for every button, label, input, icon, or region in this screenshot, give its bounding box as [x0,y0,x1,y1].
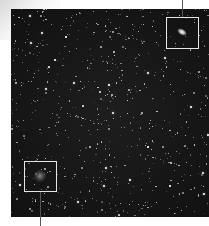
star [177,183,178,184]
star [136,57,137,58]
star [92,198,93,199]
star [180,61,181,62]
star [128,37,129,38]
star [58,117,59,118]
star [186,206,187,207]
star [79,140,80,141]
star [143,9,144,10]
star [185,135,186,136]
star [40,15,41,16]
star [194,211,195,212]
star [107,70,108,71]
star [16,198,18,200]
star [170,162,172,164]
star [147,146,149,148]
star [12,99,13,100]
star [122,46,123,47]
star [86,177,87,178]
star [93,180,94,181]
star [192,15,193,16]
star [109,36,110,37]
star [109,141,110,142]
star [84,161,85,162]
star [108,128,110,130]
star [138,31,139,32]
star [139,138,140,139]
star [124,165,126,167]
star [127,113,128,114]
star [64,206,65,207]
star [151,149,152,150]
star [36,158,37,159]
star [109,91,110,92]
star [174,213,175,214]
star [166,191,167,192]
star [112,31,114,33]
star [117,184,118,185]
star [126,16,127,17]
star [29,52,30,53]
star [127,146,128,147]
star [175,134,176,135]
star [89,49,90,50]
star [28,81,29,82]
star [203,193,205,195]
star [24,138,25,139]
star [38,43,39,44]
star [23,135,24,136]
star [190,175,191,176]
star [167,158,168,159]
star [32,112,33,113]
star [58,206,59,207]
star [74,176,75,177]
star [89,68,90,69]
star [103,185,105,187]
star [63,58,64,59]
star [148,53,149,54]
star [105,148,106,149]
star [60,166,61,167]
star [61,29,62,30]
star [184,145,185,146]
star [119,77,120,78]
star [115,28,116,29]
star [31,103,32,104]
star [200,76,201,77]
star [97,129,98,130]
star [99,177,100,178]
star [89,190,90,191]
star [44,16,45,17]
star [152,157,153,158]
star [22,159,23,160]
star [21,9,22,10]
star [206,144,207,145]
star [84,86,85,87]
star [146,143,147,144]
star [164,50,165,51]
star [82,105,83,106]
star [164,120,165,121]
star [60,109,61,110]
star [139,210,140,211]
star [77,116,79,118]
star [48,202,49,203]
star [96,200,97,201]
star [191,165,192,166]
star [114,55,115,56]
star [89,146,90,147]
star [23,83,24,84]
star [150,120,151,121]
star [93,160,94,161]
star [132,24,133,25]
star [45,88,47,90]
star [57,60,58,61]
star [121,70,122,71]
star [140,10,141,11]
star [100,98,101,99]
star [34,48,35,49]
star [128,89,130,91]
star [132,130,133,131]
star [33,77,34,78]
star [100,46,101,47]
star [153,142,154,143]
